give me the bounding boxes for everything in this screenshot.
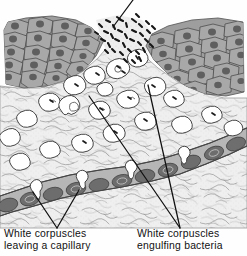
white-corpuscle bbox=[164, 90, 185, 107]
white-corpuscle bbox=[0, 128, 20, 146]
white-corpuscle bbox=[64, 75, 86, 94]
white-corpuscle bbox=[202, 106, 223, 123]
caption-left-line2: leaving a capillary bbox=[4, 240, 91, 251]
white-corpuscle bbox=[97, 82, 113, 96]
white-corpuscle bbox=[224, 120, 243, 136]
white-corpuscle bbox=[40, 141, 61, 158]
white-corpuscle bbox=[10, 153, 31, 170]
caption-right-line2: engulfing bacteria bbox=[137, 240, 223, 251]
caption-left: White corpusclesleaving a capillary bbox=[4, 228, 91, 251]
caption-right: White corpusclesengulfing bacteria bbox=[137, 228, 223, 251]
caption-right-line1: White corpuscles bbox=[137, 228, 219, 239]
white-corpuscle bbox=[84, 66, 106, 84]
white-corpuscle bbox=[172, 116, 193, 133]
illustration-canvas bbox=[0, 0, 247, 256]
caption-left-line1: White corpuscles bbox=[4, 228, 86, 239]
white-corpuscle bbox=[135, 112, 157, 130]
white-corpuscle bbox=[17, 110, 38, 127]
white-corpuscle bbox=[117, 90, 140, 108]
white-corpuscle bbox=[59, 95, 80, 114]
illustration-figure: White corpusclesleaving a capillary Whit… bbox=[0, 0, 247, 256]
white-corpuscle bbox=[72, 134, 94, 152]
white-corpuscle bbox=[39, 93, 61, 111]
